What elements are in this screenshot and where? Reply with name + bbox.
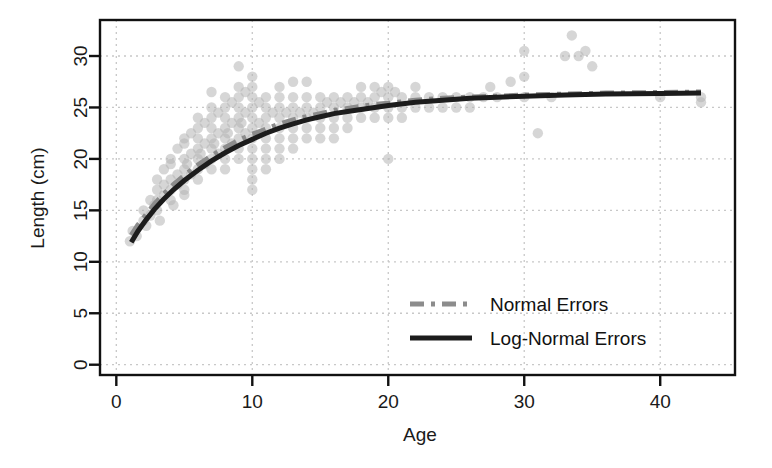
scatter-point [155,215,165,225]
scatter-point [342,123,352,133]
x-tick-label: 10 [242,391,263,412]
scatter-point [567,30,577,40]
legend: Normal ErrorsLog-Normal Errors [410,294,646,349]
scatter-point [166,154,176,164]
scatter-point [587,61,597,71]
scatter-point [182,159,192,169]
scatter-points [125,30,706,246]
scatter-point [560,51,570,61]
scatter-point [168,200,178,210]
scatter-point [580,46,590,56]
scatter-point [437,102,447,112]
scatter-point [485,82,495,92]
scatter-point [233,154,243,164]
scatter-point [274,154,284,164]
scatter-point [315,123,325,133]
scatter-point [383,154,393,164]
scatter-point [451,102,461,112]
grid-lines [100,20,735,375]
scatter-point [261,92,271,102]
scatter-point [236,118,246,128]
scatter-plot: 010203040051015202530 Normal ErrorsLog-N… [0,0,772,468]
scatter-point [274,143,284,153]
scatter-point [179,190,189,200]
scatter-point [383,113,393,123]
scatter-point [301,77,311,87]
scatter-point [465,102,475,112]
scatter-point [247,154,257,164]
scatter-point [356,82,366,92]
scatter-point [505,77,515,87]
scatter-point [288,92,298,102]
scatter-point [329,123,339,133]
scatter-point [195,149,205,159]
plot-frame [100,20,735,375]
scatter-point [261,164,271,174]
x-axis-label: Age [403,424,437,445]
scatter-point [274,82,284,92]
y-tick-label: 15 [70,200,91,221]
scatter-point [301,92,311,102]
scatter-point [533,128,543,138]
scatter-point [274,133,284,143]
scatter-point [261,154,271,164]
scatter-point [223,128,233,138]
scatter-point [247,143,257,153]
scatter-point [397,113,407,123]
scatter-point [315,133,325,143]
scatter-point [209,138,219,148]
y-axis-label: Length (cm) [27,147,48,248]
legend-label-1: Normal Errors [490,294,608,315]
y-tick-label: 25 [70,97,91,118]
scatter-point [247,164,257,174]
scatter-point [519,71,529,81]
scatter-point [410,82,420,92]
scatter-point [206,87,216,97]
scatter-point [220,164,230,174]
y-tick-label: 30 [70,45,91,66]
x-tick-label: 30 [514,391,535,412]
scatter-point [233,61,243,71]
scatter-point [519,46,529,56]
scatter-point [288,143,298,153]
scatter-point [288,77,298,87]
chart-container: 010203040051015202530 Normal ErrorsLog-N… [0,0,772,468]
x-tick-label: 40 [650,391,671,412]
x-tick-label: 0 [111,391,122,412]
scatter-point [247,174,257,184]
y-tick-label: 5 [70,308,91,319]
scatter-point [288,133,298,143]
scatter-point [247,82,257,92]
scatter-point [247,71,257,81]
scatter-point [369,113,379,123]
scatter-point [261,143,271,153]
scatter-point [274,92,284,102]
scatter-point [301,133,311,143]
y-tick-label: 0 [70,359,91,370]
scatter-point [356,113,366,123]
scatter-point [247,185,257,195]
scatter-point [301,123,311,133]
x-tick-label: 20 [378,391,399,412]
legend-label-2: Log-Normal Errors [490,328,646,349]
scatter-point [329,133,339,143]
y-tick-label: 10 [70,251,91,272]
y-tick-label: 20 [70,148,91,169]
scatter-point [696,97,706,107]
